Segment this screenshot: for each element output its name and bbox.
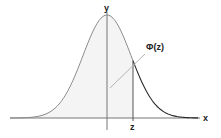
y-axis-label: y [104,3,109,13]
bell-curve-right [133,61,198,118]
x-axis-label: x [203,113,208,123]
normal-distribution-diagram: y x z Φ(z) [0,0,221,138]
phi-z-annotation-label: Φ(z) [146,42,164,52]
shaded-area-phi-z [10,15,133,118]
z-marker-label: z [130,122,135,132]
